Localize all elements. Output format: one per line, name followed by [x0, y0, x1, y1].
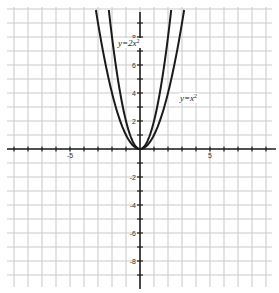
x-tick-label: 5 — [208, 152, 212, 159]
y-tick-label: -4 — [130, 202, 136, 209]
y-tick-label: -8 — [130, 258, 136, 265]
y-tick-label: 4 — [132, 90, 136, 97]
label-y-2x-squared: y=2x2 — [117, 38, 140, 49]
y-tick-label: 2 — [132, 118, 136, 125]
parabola-graph: -558642-2-4-6-8 y=2x2y=x2 — [0, 0, 279, 293]
y-tick-label: 6 — [132, 62, 136, 69]
y-tick-label: -2 — [130, 174, 136, 181]
x-tick-label: -5 — [67, 152, 73, 159]
y-tick-label: -6 — [130, 230, 136, 237]
